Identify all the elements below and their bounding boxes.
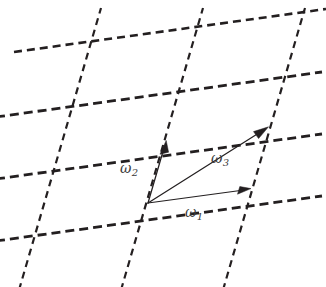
vector-label-omega1: ω1 — [185, 204, 203, 222]
vector-omega2-arrowhead — [160, 141, 169, 155]
omega1-subscript: 1 — [197, 211, 203, 222]
shallow-lattice-lines — [0, 9, 326, 241]
shallow-lattice-line-2 — [0, 72, 322, 117]
omega2-subscript: 2 — [132, 167, 138, 178]
shallow-lattice-line-1 — [14, 9, 326, 52]
omega1-glyph: ω — [185, 204, 196, 220]
vector-omega2 — [148, 141, 169, 204]
vector-omega3-arrowhead — [254, 127, 269, 139]
vector-label-omega2: ω2 — [120, 160, 138, 178]
shallow-lattice-line-4 — [0, 196, 322, 241]
vector-omega1-arrowhead — [238, 187, 252, 195]
steep-lattice-line-2 — [121, 8, 203, 287]
vector-omega3-shaft — [148, 131, 262, 203]
omega3-glyph: ω — [211, 150, 222, 166]
vector-omega1-shaft — [148, 190, 244, 203]
lattice-diagram-figure: ω2 ω3 ω1 — [0, 0, 326, 287]
vector-label-omega3: ω3 — [211, 150, 229, 168]
steep-lattice-lines — [19, 8, 305, 287]
lattice-canvas — [0, 0, 326, 287]
omega3-subscript: 3 — [223, 157, 229, 168]
vector-omega1 — [148, 187, 251, 204]
omega2-glyph: ω — [120, 160, 131, 176]
